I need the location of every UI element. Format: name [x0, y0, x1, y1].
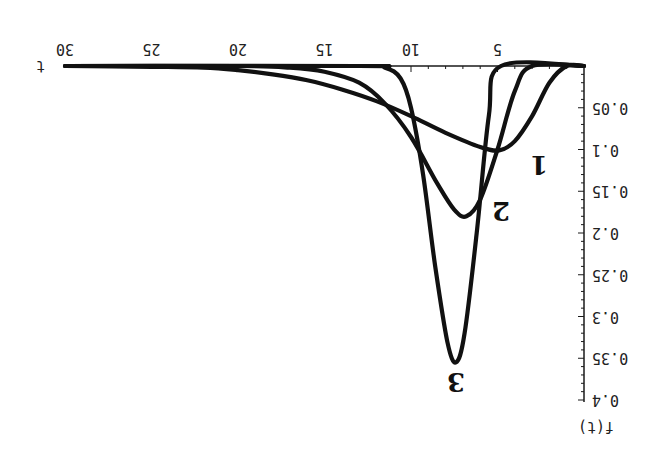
x-tick-label: 5 [493, 40, 502, 58]
x-tick-label: 15 [315, 40, 333, 58]
curve-series-1 [65, 65, 584, 151]
y-tick-label: 0.2 [592, 224, 619, 242]
x-axis-label: t [36, 57, 45, 75]
y-axis-label: f(t) [578, 418, 614, 436]
y-tick-label: 0.4 [592, 391, 619, 409]
y-tick-label: 0.35 [592, 349, 628, 367]
y-tick-label: 0.05 [592, 99, 628, 117]
y-tick-label: 0.15 [592, 182, 628, 200]
curve-series-2 [65, 64, 584, 217]
x-tick-label: 30 [56, 40, 74, 58]
plot-area: 510152025300.050.10.150.20.250.30.350.4t… [36, 40, 628, 436]
y-tick-label: 0.1 [592, 141, 619, 159]
rotated-plot-group: 510152025300.050.10.150.20.250.30.350.4t… [36, 40, 628, 436]
chart-figure: 510152025300.050.10.150.20.250.30.350.4t… [0, 0, 664, 466]
curve-label-1: 1 [530, 150, 548, 180]
x-tick-label: 25 [142, 40, 160, 58]
y-tick-label: 0.25 [592, 266, 628, 284]
x-tick-label: 10 [402, 40, 420, 58]
x-tick-label: 20 [229, 40, 247, 58]
curve-label-3: 3 [447, 367, 465, 397]
y-tick-label: 0.3 [592, 308, 619, 326]
curve-label-2: 2 [492, 196, 510, 226]
